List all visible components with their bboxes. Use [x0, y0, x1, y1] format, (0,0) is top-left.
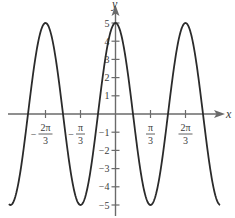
y-axis-label: y — [111, 0, 118, 11]
svg-text:2π: 2π — [40, 122, 50, 133]
y-tick-label: 1 — [105, 90, 110, 101]
svg-text:2π: 2π — [180, 122, 190, 133]
svg-text:3: 3 — [183, 135, 188, 146]
y-tick-label: 5 — [105, 18, 110, 29]
x-tick-label: π3− — [68, 122, 85, 146]
y-tick-label: −5 — [99, 200, 110, 211]
svg-text:3: 3 — [148, 135, 153, 146]
x-axis-label: x — [225, 107, 232, 121]
svg-text:3: 3 — [78, 135, 83, 146]
svg-text:−: − — [31, 129, 37, 140]
cosine-graph: x y 2π3−π3−π32π3 54321−1−2−3−4−5 — [0, 0, 235, 218]
y-tick-label: −2 — [99, 145, 110, 156]
svg-text:π: π — [78, 122, 83, 133]
y-tick-label: −1 — [99, 127, 110, 138]
x-tick-label: π3 — [146, 122, 155, 146]
svg-text:π: π — [148, 122, 153, 133]
x-tick-label: 2π3 — [179, 122, 193, 146]
svg-text:−: − — [68, 129, 74, 140]
x-tick-label: 2π3− — [31, 122, 53, 146]
y-tick-label: −4 — [99, 181, 110, 192]
svg-text:3: 3 — [43, 135, 48, 146]
y-tick-label: 2 — [105, 72, 110, 83]
y-tick-label: −3 — [99, 163, 110, 174]
